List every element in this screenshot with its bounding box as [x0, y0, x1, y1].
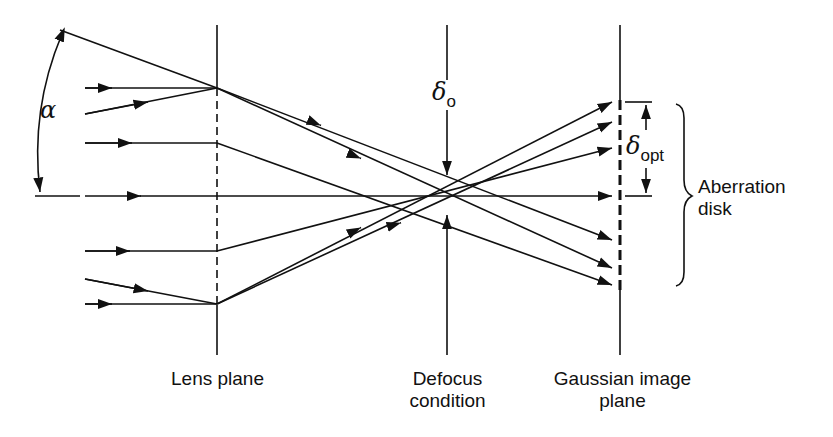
aberration-disk-label: Aberration disk [698, 176, 786, 220]
aberration-disk-line1: Aberration [698, 176, 786, 198]
delta-o-symbol: δ [432, 78, 446, 106]
defocus-line2: condition [385, 390, 510, 412]
alpha-label: α [40, 96, 56, 124]
defocus-line1: Defocus [385, 368, 510, 390]
lens-plane-text: Lens plane [150, 368, 285, 390]
delta-o-subscript: o [446, 92, 455, 111]
aberration-disk-line2: disk [698, 198, 786, 220]
delta-opt-subscript: opt [640, 146, 664, 165]
gaussian-line1: Gaussian image [540, 368, 705, 390]
delta-o-label: δo [432, 78, 456, 106]
defocus-condition-label: Defocus condition [385, 368, 510, 412]
delta-opt-symbol: δ [626, 132, 640, 160]
delta-opt-label: δopt [626, 132, 664, 160]
lens-plane-label: Lens plane [150, 368, 285, 390]
gaussian-line2: plane [540, 390, 705, 412]
gaussian-image-plane-label: Gaussian image plane [540, 368, 705, 412]
